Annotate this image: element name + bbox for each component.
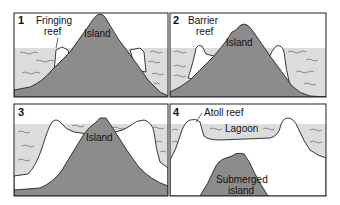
panel-1-number: 1 <box>18 14 24 26</box>
island-label-1: Island <box>84 28 111 39</box>
submerged-island-label-line2: island <box>228 185 254 196</box>
atoll-reef-label: Atoll reef <box>204 107 244 118</box>
panel-2-number: 2 <box>173 14 179 26</box>
fringing-reef-label-line2: reef <box>44 26 61 37</box>
reef-formation-diagram: 1 Fringing reef Island 2 Barrier reef Is… <box>0 0 340 205</box>
barrier-reef-label-line2: reef <box>196 26 213 37</box>
barrier-reef-label-line1: Barrier <box>188 15 219 26</box>
island-label-3: Island <box>86 132 113 143</box>
submerged-island-label-line1: Submerged <box>216 174 268 185</box>
panel-4-number: 4 <box>173 106 180 118</box>
fringing-reef-label-line1: Fringing <box>36 15 72 26</box>
lagoon-label: Lagoon <box>225 123 258 134</box>
panel-3 <box>14 104 168 196</box>
panel-3-number: 3 <box>18 106 24 118</box>
island-label-2: Island <box>226 37 253 48</box>
